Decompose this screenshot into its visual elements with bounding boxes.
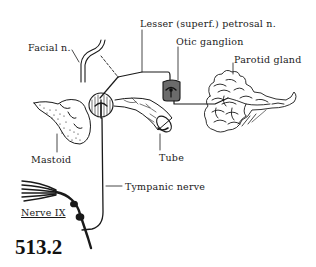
label-tube: Tube — [159, 153, 184, 163]
anatomy-diagram: Facial n. Lesser (superf.) petrosal n. O… — [0, 0, 316, 267]
mastoid-stipple — [39, 104, 80, 140]
label-tympanic-nerve: Tympanic nerve — [125, 182, 205, 192]
mastoid-shape — [34, 100, 91, 145]
label-facial-nerve: Facial n. — [28, 43, 71, 53]
facial-nerve-shape — [81, 40, 105, 82]
figure-number: 513.2 — [15, 237, 62, 258]
tube-shape — [114, 98, 174, 135]
label-parotid-gland: Parotid gland — [234, 55, 301, 65]
diagram-artwork — [0, 0, 316, 267]
label-otic-ganglion: Otic ganglion — [176, 37, 243, 47]
parotid-gland-shape — [204, 70, 296, 132]
label-mastoid: Mastoid — [31, 155, 71, 165]
label-nerve-ix: Nerve IX — [21, 208, 66, 218]
otic-ganglion-shape — [163, 80, 180, 101]
label-lesser-petrosal-nerve: Lesser (superf.) petrosal n. — [140, 19, 276, 29]
